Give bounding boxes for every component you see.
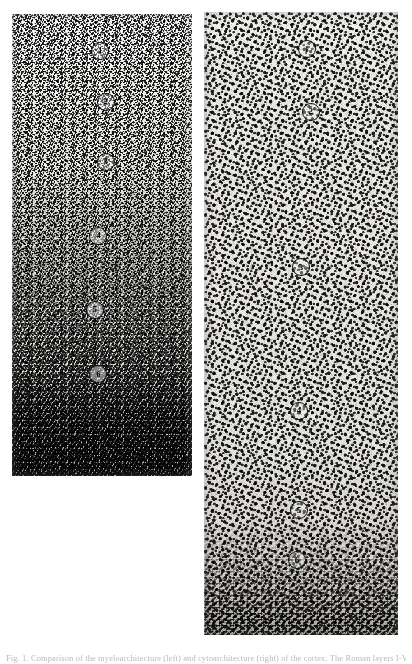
- film-grain-left: [12, 14, 192, 476]
- tissue-section-left: [12, 14, 192, 476]
- figure-plate: 1 2 3 4 5 6 1 2 3 4 5 6 Fig. 1. Comparis…: [0, 0, 412, 664]
- film-grain-right: [204, 12, 398, 635]
- figure-caption: Fig. 1. Comparison of the myeloarchitect…: [6, 652, 406, 664]
- micrograph-panel-right[interactable]: 1 2 3 4 5 6: [204, 12, 398, 635]
- layer-marker-left-2: 2: [97, 93, 115, 111]
- layer-marker-right-3: 3: [292, 258, 310, 276]
- layer-marker-left-5: 5: [86, 301, 104, 319]
- layer-marker-left-3: 3: [97, 153, 115, 171]
- layer-marker-left-4: 4: [89, 227, 107, 245]
- layer-marker-right-4: 4: [290, 402, 308, 420]
- layer-marker-right-6: 6: [288, 551, 306, 569]
- layer-marker-right-1: 1: [298, 40, 316, 58]
- layer-marker-left-1: 1: [91, 42, 109, 60]
- layer-marker-right-2: 2: [302, 103, 320, 121]
- layer-marker-right-5: 5: [290, 501, 308, 519]
- tissue-section-right: [204, 12, 398, 635]
- layer-marker-left-6: 6: [89, 365, 107, 383]
- micrograph-panel-left[interactable]: 1 2 3 4 5 6: [12, 14, 192, 476]
